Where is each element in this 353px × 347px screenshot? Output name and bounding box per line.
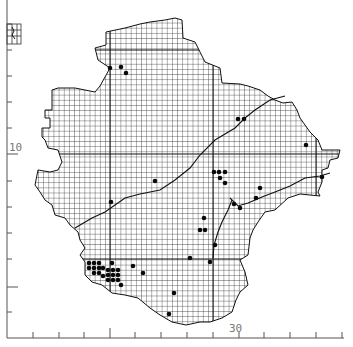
record-dot	[106, 268, 111, 273]
record-dot	[97, 266, 102, 271]
record-dot	[203, 228, 208, 233]
x-axis-ticks	[33, 328, 342, 338]
record-dot	[101, 274, 106, 279]
record-dot	[106, 273, 111, 278]
record-dot	[258, 186, 263, 191]
record-dot	[111, 268, 116, 273]
x-axis-label: 30	[229, 322, 242, 335]
record-dot	[304, 143, 309, 148]
record-dot	[202, 216, 207, 221]
record-dot	[232, 202, 237, 207]
record-dot	[92, 271, 97, 276]
record-dot	[109, 200, 114, 205]
record-dot	[223, 170, 228, 175]
record-dot	[167, 312, 172, 317]
y-axis-ticks	[7, 24, 18, 312]
record-dot	[124, 71, 129, 76]
record-dot	[236, 117, 241, 122]
record-dot	[320, 175, 325, 180]
record-dot	[97, 271, 102, 276]
record-dot	[87, 266, 92, 271]
record-dot	[213, 243, 218, 248]
record-dot	[116, 278, 121, 283]
y-axis-label: 10	[9, 141, 22, 154]
record-dot	[116, 273, 121, 278]
record-dot	[212, 170, 217, 175]
record-dot	[108, 66, 113, 71]
record-dot	[116, 268, 121, 273]
grid-cells	[0, 0, 353, 347]
record-dot	[111, 273, 116, 278]
record-dot	[87, 261, 92, 266]
record-dot	[188, 256, 193, 261]
record-dot	[172, 291, 177, 296]
record-dot	[242, 117, 247, 122]
record-dot	[238, 206, 243, 211]
record-dot	[97, 261, 102, 266]
record-dot	[106, 278, 111, 283]
inset-grid	[7, 24, 21, 44]
record-dot	[254, 196, 259, 201]
distribution-map	[0, 0, 353, 347]
record-dot	[111, 278, 116, 283]
record-dot	[217, 170, 222, 175]
record-dot	[119, 283, 124, 288]
record-dot	[101, 266, 106, 271]
record-dot	[208, 260, 213, 265]
record-dot	[131, 264, 136, 269]
record-dot	[92, 261, 97, 266]
record-dot	[119, 65, 124, 70]
record-dot	[92, 266, 97, 271]
record-dot	[198, 228, 203, 233]
record-dot	[141, 271, 146, 276]
record-dot	[110, 261, 115, 266]
record-dot	[153, 179, 158, 184]
record-dot	[223, 181, 228, 186]
record-dot	[218, 176, 223, 181]
